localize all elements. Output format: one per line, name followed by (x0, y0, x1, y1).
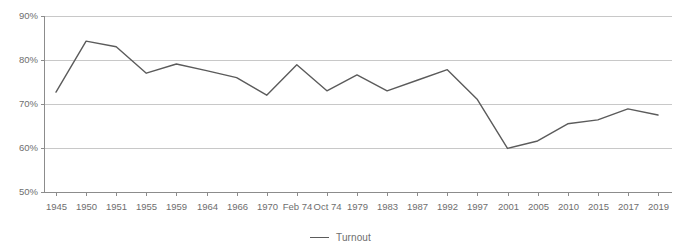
legend-swatch-turnout (310, 237, 329, 238)
x-tick-label: 2001 (498, 201, 519, 212)
x-tick-label: 1970 (257, 201, 278, 212)
x-tick-label: 1945 (46, 201, 67, 212)
x-tick-label: 1992 (437, 201, 458, 212)
x-tick-label: 2015 (588, 201, 609, 212)
x-tick-label: Feb 74 (283, 201, 313, 212)
x-tick-label: 2005 (528, 201, 549, 212)
plot-area: 50%60%70%80%90% 194519501951195519591964… (0, 0, 681, 249)
x-tick-label: 2019 (648, 201, 669, 212)
x-tick-label: 1997 (467, 201, 488, 212)
y-tick-label: 80% (19, 54, 39, 65)
y-tick-label: 70% (19, 98, 39, 109)
turnout-line-chart: 50%60%70%80%90% 194519501951195519591964… (0, 0, 681, 249)
y-tick-labels: 50%60%70%80%90% (19, 10, 45, 197)
x-tick-labels: 19451950195119551959196419661970Feb 74Oc… (46, 201, 669, 212)
y-tick-label: 60% (19, 142, 39, 153)
x-tick-label: 1964 (197, 201, 218, 212)
y-tick-label: 50% (19, 186, 39, 197)
x-tick-label: 1955 (136, 201, 157, 212)
y-tick-label: 90% (19, 10, 39, 21)
x-tick-label: Oct 74 (314, 201, 342, 212)
series-line-turnout (56, 41, 658, 148)
x-tick-label: 1987 (407, 201, 428, 212)
data-series (56, 41, 658, 148)
chart-canvas: 50%60%70%80%90% 194519501951195519591964… (0, 0, 681, 249)
x-tick-label: 1959 (166, 201, 187, 212)
legend-label-turnout: Turnout (336, 232, 371, 243)
x-tick-label: 2017 (618, 201, 639, 212)
gridlines (45, 17, 673, 193)
x-tick-label: 1951 (106, 201, 127, 212)
chart-legend: Turnout (0, 232, 681, 243)
x-tick-label: 1983 (377, 201, 398, 212)
x-tick-label: 2010 (558, 201, 579, 212)
x-tick-label: 1979 (347, 201, 368, 212)
x-tick-label: 1966 (227, 201, 248, 212)
x-tick-label: 1950 (76, 201, 97, 212)
